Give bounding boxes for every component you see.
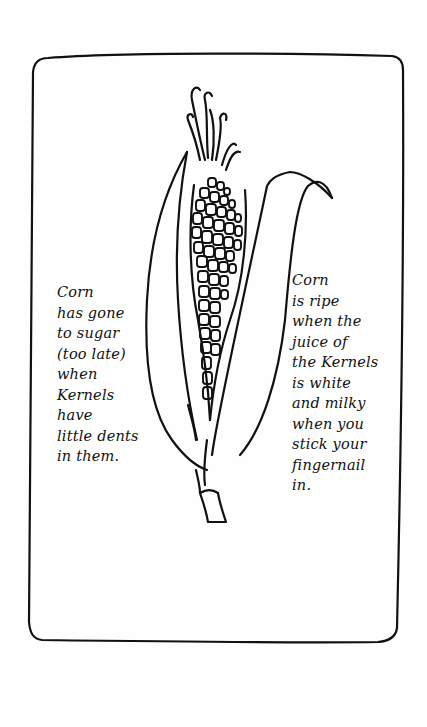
note-line: the Kernels <box>292 352 379 373</box>
corn-stem <box>200 493 226 522</box>
note-line: when <box>57 364 139 385</box>
note-line: have <box>57 405 139 426</box>
note-line: fingernail <box>292 455 379 476</box>
note-line: stick your <box>292 434 379 455</box>
note-line: (too late) <box>57 344 139 365</box>
note-line: is ripe <box>292 291 379 312</box>
note-line: and milky <box>292 393 379 414</box>
note-line: juice of <box>292 332 379 353</box>
illustration-page: Corn has gone to sugar (too late) when K… <box>0 0 427 727</box>
note-line: Corn <box>292 270 379 291</box>
note-line: has gone <box>57 303 139 324</box>
note-ripe: Corn is ripe when the juice of the Kerne… <box>292 270 379 496</box>
note-too-late: Corn has gone to sugar (too late) when K… <box>57 282 139 467</box>
note-line: little dents <box>57 426 139 447</box>
note-line: in them. <box>57 446 139 467</box>
note-line: to sugar <box>57 323 139 344</box>
note-line: Corn <box>57 282 139 303</box>
note-line: in. <box>292 475 379 496</box>
note-line: when the <box>292 311 379 332</box>
note-line: is white <box>292 373 379 394</box>
note-line: Kernels <box>57 385 139 406</box>
note-line: when you <box>292 414 379 435</box>
